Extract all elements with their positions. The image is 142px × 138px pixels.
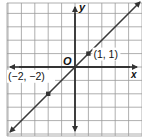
y-axis-label: y <box>78 1 86 13</box>
data-point <box>46 92 50 96</box>
coordinate-plane: (1, 1)(−2, −2)yxO <box>0 0 142 138</box>
point-label: (−2, −2) <box>8 70 45 82</box>
x-axis-label: x <box>130 69 137 80</box>
origin-label: O <box>63 55 72 67</box>
data-point <box>86 51 90 55</box>
point-label: (1, 1) <box>93 48 118 60</box>
